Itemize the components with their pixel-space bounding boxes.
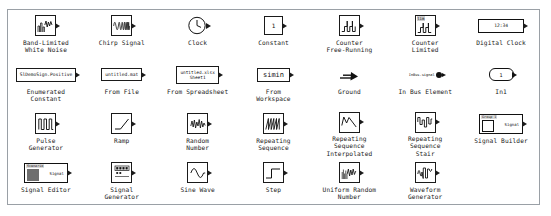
block-enumerated-constant[interactable]: SlDemoSign.Positive Enumerated Constant (8, 59, 84, 108)
block-label: Ramp (114, 137, 129, 144)
output-port (522, 121, 527, 127)
output-port (512, 72, 517, 78)
block-signal-editor[interactable]: Scenario Signal Signal Editor (8, 157, 84, 206)
from-file-icon: untitled.mat (101, 62, 142, 87)
signal-builder-group-label: Group 1 (481, 115, 497, 119)
output-port (141, 72, 146, 78)
signal-builder-port-label: Signal (505, 122, 519, 127)
block-label: Uniform Random Number (323, 186, 377, 201)
output-port (435, 170, 440, 176)
block-from-spreadsheet[interactable]: untitled.xlsx Sheet1 From Spreadsheet (160, 59, 236, 108)
block-signal-generator[interactable]: Signal Generator (84, 157, 160, 206)
block-band-limited-white-noise[interactable]: Band-Limited White Noise (8, 10, 84, 59)
block-chirp-signal[interactable]: Chirp Signal (84, 10, 160, 59)
block-waveform-generator[interactable]: Waveform Generator (387, 157, 463, 206)
block-label: Repeating Sequence (256, 137, 290, 152)
signal-editor-icon: Scenario Signal (24, 160, 68, 185)
constant-value-icon: 1 (264, 13, 283, 38)
sources-library-panel: Band-Limited White Noise (7, 9, 540, 205)
block-clock[interactable]: Clock (160, 10, 236, 59)
in-bus-element-value: InBus.signal (409, 73, 435, 77)
block-label: Band-Limited White Noise (23, 39, 69, 54)
block-from-file[interactable]: untitled.mat From File (84, 59, 160, 108)
from-spreadsheet-value: untitled.xlsx Sheet1 (180, 70, 214, 80)
constant-value: 1 (272, 22, 276, 29)
clock-face-icon (187, 13, 208, 38)
output-port (206, 23, 211, 29)
block-random-number[interactable]: Random Number (160, 108, 236, 157)
block-constant[interactable]: 1 Constant (236, 10, 312, 59)
block-label: Sine Wave (180, 186, 214, 193)
signal-editor-scenario-label: Scenario (26, 164, 44, 168)
output-port (289, 72, 294, 78)
output-port (218, 72, 223, 78)
from-spreadsheet-icon: untitled.xlsx Sheet1 (176, 62, 218, 87)
signal-editor-thumbnail (27, 169, 39, 181)
inport-number: 1 (500, 72, 503, 78)
block-label: Ground (338, 88, 361, 95)
empty-grid-slot (463, 157, 539, 206)
enumerated-constant-value: SlDemoSign.Positive (20, 72, 73, 77)
from-workspace-value: simin (263, 71, 284, 79)
block-from-workspace[interactable]: simin From Workspace (236, 59, 312, 108)
block-label: Waveform Generator (408, 186, 442, 201)
block-repeating-sequence[interactable]: Repeating Sequence (236, 108, 312, 157)
block-step[interactable]: Step (236, 157, 312, 206)
output-port (359, 119, 364, 125)
block-sine-wave[interactable]: Sine Wave (160, 157, 236, 206)
block-label: Signal Generator (105, 186, 139, 201)
block-label: Chirp Signal (99, 39, 145, 46)
bus-port-dot (436, 72, 442, 78)
block-in-bus-element[interactable]: InBus.signal In Bus Element (387, 59, 463, 108)
block-label: From Spreadsheet (167, 88, 228, 95)
output-port (435, 119, 440, 125)
output-port (523, 23, 528, 29)
block-signal-builder[interactable]: Group 1 Signal Signal Builder (463, 108, 539, 157)
block-label: Step (266, 186, 281, 193)
counter-limit-label: lim (417, 16, 425, 21)
output-port (283, 121, 288, 127)
block-label: Clock (188, 39, 207, 46)
block-label: Counter Free-Running (326, 39, 372, 54)
block-repeating-sequence-stair[interactable]: Repeating Sequence Stair (387, 108, 463, 157)
block-repeating-sequence-interpolated[interactable]: Repeating Sequence Interpolated (311, 108, 387, 157)
block-label: From File (105, 88, 139, 95)
counter-limited-icon: lim (415, 13, 436, 38)
block-label: Repeating Sequence Interpolated (326, 135, 372, 157)
block-label: Counter Limited (412, 39, 439, 54)
block-label: Repeating Sequence Stair (408, 135, 442, 157)
output-port (131, 170, 136, 176)
ground-arrow-icon (338, 62, 360, 87)
block-label: Digital Clock (476, 39, 526, 46)
output-port (359, 170, 364, 176)
output-port (207, 170, 212, 176)
block-in1[interactable]: 1 In1 (463, 59, 539, 108)
signal-builder-icon: Group 1 Signal (479, 111, 523, 136)
random-number-icon (187, 111, 208, 136)
block-label: Random Number (186, 137, 209, 152)
repeating-sequence-icon (263, 111, 284, 136)
output-port (207, 121, 212, 127)
repeating-seq-interp-icon (339, 111, 360, 134)
counter-sawtooth-icon (339, 13, 360, 38)
output-port (55, 121, 60, 127)
block-counter-limited[interactable]: lim Counter Limited (387, 10, 463, 59)
block-label: From Workspace (256, 88, 290, 103)
block-label: Pulse Generator (29, 137, 63, 152)
ramp-icon (111, 111, 132, 136)
inport-icon: 1 (489, 62, 514, 87)
block-label: Constant (258, 39, 289, 46)
block-label: Signal Builder (474, 137, 528, 144)
sine-wave-icon (187, 160, 208, 185)
signal-editor-port-label: Signal (49, 171, 63, 176)
block-counter-free-running[interactable]: Counter Free-Running (311, 10, 387, 59)
waveform-generator-icon (415, 160, 436, 185)
block-uniform-random-number[interactable]: Uniform Random Number (311, 157, 387, 206)
block-digital-clock[interactable]: 12:34 Digital Clock (463, 10, 539, 59)
block-ground[interactable]: Ground (311, 59, 387, 108)
output-port (131, 121, 136, 127)
block-label: In Bus Element (398, 88, 452, 95)
digital-clock-icon: 12:34 (478, 13, 524, 38)
block-pulse-generator[interactable]: Pulse Generator (8, 108, 84, 157)
block-ramp[interactable]: Ramp (84, 108, 160, 157)
